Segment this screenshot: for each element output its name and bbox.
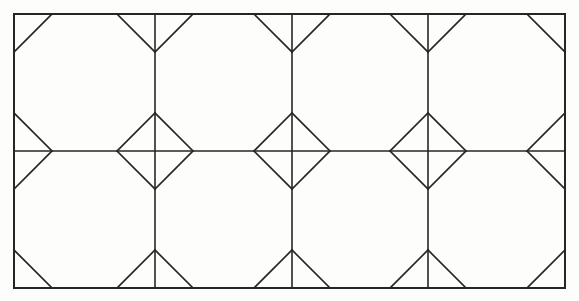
tessellation-drawing (0, 0, 579, 301)
pattern-canvas (0, 0, 579, 301)
